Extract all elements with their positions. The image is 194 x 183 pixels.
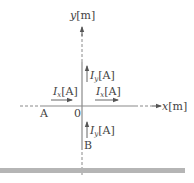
x-axis-label: x[m] (162, 100, 187, 113)
origin-label: 0 (74, 107, 81, 120)
svg-text:Ix[A]: Ix[A] (52, 85, 78, 99)
bottom-divider-bar (0, 168, 185, 173)
y-axis-label: y[m] (69, 9, 95, 22)
point-a-label: A (39, 107, 49, 120)
current-iy-upper: Iy[A] (87, 66, 115, 83)
current-ix-left: Ix[A] (51, 85, 78, 100)
point-b-label: B (84, 139, 92, 152)
current-axes-diagram: y[m] x[m] 0 A B Ix[A] Ix[A] Iy[A] (0, 0, 194, 183)
current-iy-lower: Iy[A] (87, 122, 115, 138)
svg-text:Iy[A]: Iy[A] (89, 124, 115, 138)
svg-text:Iy[A]: Iy[A] (89, 69, 115, 83)
current-ix-right: Ix[A] (95, 85, 121, 100)
svg-text:Ix[A]: Ix[A] (95, 85, 121, 99)
